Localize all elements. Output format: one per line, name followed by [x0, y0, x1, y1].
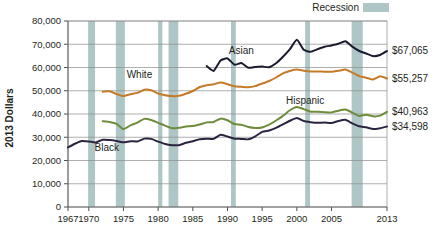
y-axis-ticks-group	[64, 21, 68, 207]
x-tick-label-0: 1967	[57, 213, 78, 224]
y-tick-label-1: 10,000	[32, 178, 61, 189]
y-tick-label-6: 60,000	[32, 62, 61, 73]
income-line-chart: 010,00020,00030,00040,00050,00060,00070,…	[0, 0, 441, 239]
end-label-white: $55,257	[392, 73, 429, 84]
x-tick-label-7: 2000	[286, 213, 307, 224]
series-annotation-asian: Asian	[229, 45, 254, 56]
y-tick-label-5: 50,000	[32, 85, 61, 96]
series-annotation-white: White	[127, 69, 153, 80]
x-tick-label-5: 1990	[217, 213, 238, 224]
x-tick-label-6: 1995	[252, 213, 273, 224]
x-axis-tick-labels: 1967197019751980198519901995200020052013	[57, 213, 397, 224]
x-tick-label-3: 1980	[148, 213, 169, 224]
y-axis-tick-labels: 010,00020,00030,00040,00050,00060,00070,…	[32, 15, 61, 212]
x-tick-label-9: 2013	[376, 213, 397, 224]
x-tick-label-2: 1975	[113, 213, 134, 224]
end-label-hispanic: $40,963	[392, 106, 429, 117]
series-annotation-black: Black	[95, 142, 120, 153]
y-tick-label-3: 30,000	[32, 132, 61, 143]
series-annotation-labels: AsianWhiteHispanicBlack	[95, 45, 325, 152]
series-annotation-hispanic: Hispanic	[286, 95, 324, 106]
y-tick-label-4: 40,000	[32, 108, 61, 119]
end-value-labels-group: $67,065$55,257$40,963$34,598	[392, 45, 429, 131]
end-label-black: $34,598	[392, 121, 429, 132]
x-tick-label-4: 1985	[182, 213, 203, 224]
end-label-asian: $67,065	[392, 45, 429, 56]
y-tick-label-8: 80,000	[32, 15, 61, 26]
y-tick-label-0: 0	[56, 201, 61, 212]
y-tick-label-2: 20,000	[32, 155, 61, 166]
chart-container: 010,00020,00030,00040,00050,00060,00070,…	[0, 0, 441, 239]
y-axis-title: 2013 Dollars	[4, 88, 15, 147]
y-tick-label-7: 70,000	[32, 39, 61, 50]
x-tick-label-8: 2005	[321, 213, 342, 224]
legend-swatch-recession	[363, 3, 389, 12]
x-tick-label-1: 1970	[78, 213, 99, 224]
series-line-hispanic	[103, 107, 387, 129]
legend: Recession	[312, 2, 389, 13]
legend-label-recession: Recession	[312, 2, 359, 13]
x-axis-ticks-group	[68, 207, 387, 211]
